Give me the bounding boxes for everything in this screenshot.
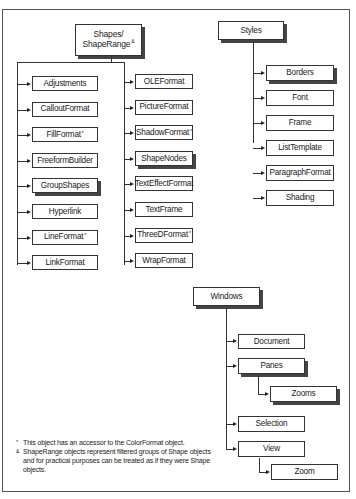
node-font: Font <box>266 90 334 106</box>
node-label: CalloutFormat <box>41 104 90 113</box>
node-texteffectformat: TextEffectFormat <box>135 176 193 191</box>
arrow-icon <box>27 236 31 240</box>
arrow-icon <box>27 159 31 163</box>
node-calloutformat: CalloutFormat <box>32 102 98 117</box>
arrow-icon <box>233 422 237 426</box>
arrow-icon <box>261 171 265 175</box>
connector <box>258 375 259 395</box>
footnote-ampersand: & ShapeRange objects represent filtered … <box>16 447 216 474</box>
connector <box>259 458 260 473</box>
connector-trunk-windows <box>226 307 227 449</box>
arrow-icon <box>261 71 265 75</box>
arrow-icon <box>233 364 237 368</box>
arrow-icon <box>27 261 31 265</box>
arrow-icon <box>233 339 237 343</box>
node-label: ShapeRange <box>83 39 131 49</box>
arrow-icon <box>266 470 270 474</box>
node-label: View <box>263 444 280 453</box>
arrow-icon <box>130 259 134 263</box>
node-view: View <box>238 441 305 457</box>
arrow-icon <box>261 121 265 125</box>
node-label: FillFormat <box>46 130 80 139</box>
node-groupshapes: GroupShapes <box>32 178 98 193</box>
node-label: Panes <box>260 361 282 370</box>
node-zoom: Zoom <box>271 464 338 480</box>
node-oleformat: OLEFormat <box>135 74 193 89</box>
footnotes: * This object has an accessor to the Col… <box>16 438 216 474</box>
node-label: Adjustments <box>44 79 87 88</box>
node-selection: Selection <box>238 416 305 432</box>
node-label: GroupShapes <box>41 181 89 190</box>
arrow-icon <box>265 392 269 396</box>
node-label: FreeformBuilder <box>37 156 93 165</box>
node-linkformat: LinkFormat <box>32 255 98 270</box>
arrow-icon <box>261 96 265 100</box>
node-label: PictureFormat <box>140 102 189 111</box>
node-label: ShadowFormat <box>136 128 189 137</box>
arrow-icon <box>130 157 134 161</box>
arrow-icon <box>27 82 31 86</box>
connector-trunk-left <box>17 62 18 265</box>
footnote-asterisk: * This object has an accessor to the Col… <box>16 438 216 447</box>
node-label: ThreeDFormat <box>137 230 188 239</box>
node-borders: Borders <box>266 65 334 81</box>
arrow-icon <box>27 210 31 214</box>
node-label: LineFormat <box>44 232 83 241</box>
node-label: Styles <box>240 26 261 35</box>
node-fillformat: FillFormat* <box>32 127 98 142</box>
node-zooms: Zooms <box>270 386 337 402</box>
arrow-icon <box>261 146 265 150</box>
arrow-icon <box>27 184 31 188</box>
node-label: Borders <box>286 68 313 77</box>
arrow-icon <box>261 196 265 200</box>
node-threedformat: ThreeDFormat* <box>135 228 193 243</box>
node-textframe: TextFrame <box>135 202 193 217</box>
node-label: Windows <box>211 292 243 301</box>
node-adjustments: Adjustments <box>32 76 98 91</box>
arrow-icon <box>27 133 31 137</box>
asterisk-mark: * <box>190 129 192 135</box>
node-label: Zooms <box>291 389 315 398</box>
node-label: Zoom <box>294 467 314 476</box>
arrow-icon <box>130 80 134 84</box>
node-label: Document <box>254 337 290 346</box>
node-label: Font <box>292 93 308 102</box>
node-document: Document <box>238 334 305 349</box>
arrow-icon <box>130 106 134 110</box>
node-listtemplate: ListTemplate <box>266 140 334 156</box>
node-label: LinkFormat <box>46 258 85 267</box>
node-label: Shading <box>286 193 315 202</box>
node-freeformbuilder: FreeformBuilder <box>32 153 98 168</box>
connector-trunk-right <box>124 62 125 265</box>
node-label: Selection <box>256 419 288 428</box>
node-lineformat: LineFormat* <box>32 230 98 245</box>
node-shapenodes: ShapeNodes <box>135 151 193 166</box>
asterisk-mark: * <box>82 131 84 137</box>
node-panes: Panes <box>238 358 305 374</box>
node-label: Frame <box>289 118 312 127</box>
node-label: ShapeNodes <box>141 154 186 163</box>
node-styles: Styles <box>218 21 284 40</box>
node-paragraphformat: ParagraphFormat <box>266 165 334 181</box>
arrow-icon <box>130 208 134 212</box>
node-label: OLEFormat <box>144 77 185 86</box>
arrow-icon <box>233 447 237 451</box>
arrow-icon <box>27 108 31 112</box>
node-windows: Windows <box>193 287 260 306</box>
asterisk-mark: * <box>189 231 191 237</box>
node-frame: Frame <box>266 115 334 131</box>
node-label: TextFrame <box>146 205 183 214</box>
node-label: WrapFormat <box>142 256 185 265</box>
node-label: TextEffectFormat <box>135 179 194 188</box>
node-shadowformat: ShadowFormat* <box>135 125 193 140</box>
node-shapes-shaperange: Shapes/ ShapeRange& <box>75 24 142 56</box>
connector-trunk-styles <box>253 41 254 143</box>
node-label: ParagraphFormat <box>269 168 330 177</box>
node-label: ListTemplate <box>278 143 322 152</box>
ampersand-mark: & <box>131 38 134 44</box>
node-shading: Shading <box>266 190 334 206</box>
node-hyperlink: Hyperlink <box>32 204 98 219</box>
arrow-icon <box>130 182 134 186</box>
node-label: Hyperlink <box>49 207 81 216</box>
node-wrapformat: WrapFormat <box>135 253 193 268</box>
